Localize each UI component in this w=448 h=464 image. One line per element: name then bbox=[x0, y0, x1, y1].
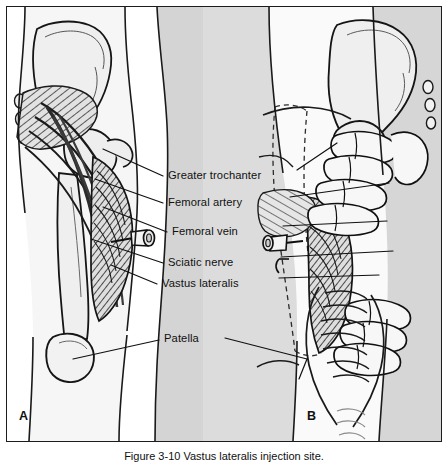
panel-b-artwork bbox=[257, 7, 441, 441]
hand-lower bbox=[334, 300, 411, 376]
figure-container: Greater trochanter Femoral artery Femora… bbox=[0, 0, 448, 464]
anatomy-illustration bbox=[7, 7, 441, 441]
illustration-plate: Greater trochanter Femoral artery Femora… bbox=[6, 6, 442, 442]
figure-caption: Figure 3-10 Vastus lateralis injection s… bbox=[0, 446, 448, 464]
figure-caption-text: Figure 3-10 Vastus lateralis injection s… bbox=[124, 450, 324, 462]
panel-a-artwork bbox=[7, 7, 203, 441]
